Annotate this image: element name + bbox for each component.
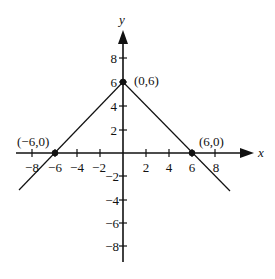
x-tick-label: 8 [213, 160, 220, 175]
point-label: (0,6) [134, 73, 159, 88]
y-axis-label: y [117, 12, 125, 27]
point-neg6-0 [52, 150, 58, 156]
y-tick-label: 4 [111, 99, 118, 114]
point-label: (−6,0) [17, 134, 49, 149]
x-tick-label: −2 [92, 160, 106, 175]
y-tick-label: 8 [111, 51, 118, 66]
y-tick-label: −4 [105, 193, 119, 208]
point-label: (6,0) [199, 134, 224, 149]
y-tick-label: 6 [111, 75, 118, 90]
y-tick-label: −2 [105, 169, 119, 184]
y-tick-label: 2 [111, 123, 118, 138]
y-axis-arrow-icon [118, 30, 128, 44]
x-tick-label: 4 [166, 160, 173, 175]
point-0-6 [120, 79, 126, 85]
point-6-0 [189, 150, 195, 156]
x-tick-label: −4 [70, 160, 84, 175]
y-tick-label: −6 [105, 216, 119, 231]
x-tick-label: 2 [143, 160, 150, 175]
x-tick-label: 6 [189, 160, 196, 175]
x-axis-arrow-icon [240, 148, 254, 158]
graph: −8 −6 −4 −2 2 4 6 8 8 6 4 2 −2 −4 −6 −8 … [0, 0, 275, 279]
x-axis-label: x [257, 145, 264, 160]
x-tick-label: −8 [25, 160, 39, 175]
x-tick-label: −6 [48, 160, 62, 175]
y-tick-label: −8 [105, 239, 119, 254]
